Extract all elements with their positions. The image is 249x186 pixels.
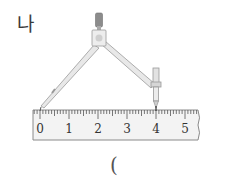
compass-needle-leg: [40, 45, 99, 111]
compass-head: [92, 13, 106, 46]
ruler-tick-label: 0: [36, 122, 44, 136]
ruler-tick-label: 5: [181, 122, 189, 136]
compass-pencil-leg: [101, 41, 161, 111]
ruler-tick-label: 1: [65, 122, 73, 136]
compass-ruler-diagram: 012345: [0, 0, 249, 186]
ruler-tick-label: 3: [123, 122, 131, 136]
answer-paren: (: [110, 153, 118, 177]
ruler-tick-label: 2: [94, 122, 102, 136]
ruler-tick-label: 4: [152, 122, 160, 136]
ruler: 012345: [33, 110, 200, 140]
compass: [40, 13, 161, 111]
